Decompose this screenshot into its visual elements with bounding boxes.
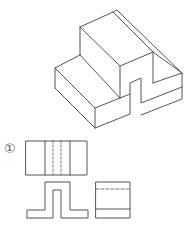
top-view xyxy=(26,141,87,175)
isometric-view xyxy=(55,10,182,128)
figure-canvas: ① xyxy=(0,0,195,227)
side-view xyxy=(96,182,130,218)
drawing-svg xyxy=(0,0,195,227)
front-view xyxy=(27,182,88,218)
option-label: ① xyxy=(4,142,16,155)
